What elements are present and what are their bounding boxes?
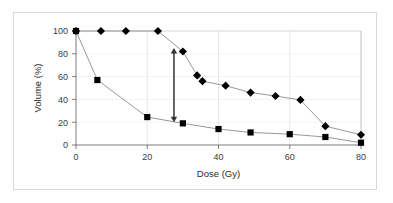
diamond-marker	[357, 131, 365, 139]
square-marker	[180, 120, 186, 126]
x-tick-label-80: 80	[356, 152, 366, 162]
y-tick-label-40: 40	[58, 95, 68, 105]
square-marker	[322, 134, 328, 140]
y-tick-label-0: 0	[63, 140, 68, 150]
y-axis-title: Volume (%)	[32, 63, 43, 112]
diamond-marker	[271, 92, 279, 100]
y-tick-label-20: 20	[58, 118, 68, 128]
x-axis-ticks	[76, 145, 361, 149]
square-marker	[215, 126, 221, 132]
diamond-marker	[122, 27, 130, 35]
x-tick-labels: 0 20 40 60 80	[73, 152, 366, 162]
square-marker	[144, 114, 150, 120]
y-axis-ticks	[72, 31, 76, 145]
y-tick-label-60: 60	[58, 72, 68, 82]
square-marker	[94, 77, 100, 83]
square-marker	[358, 140, 364, 146]
dose-volume-histogram-chart: 100 80 60 40 20 0 0 20 40 60 80 Dose (Gy…	[0, 0, 393, 203]
diamond-marker	[246, 88, 254, 96]
square-marker	[247, 129, 253, 135]
figure-root: 100 80 60 40 20 0 0 20 40 60 80 Dose (Gy…	[0, 0, 393, 203]
square-marker	[287, 131, 293, 137]
annotation-layer	[171, 48, 177, 122]
diamond-marker	[222, 82, 230, 90]
x-tick-label-20: 20	[142, 152, 152, 162]
y-tick-label-100: 100	[53, 26, 68, 36]
x-tick-label-40: 40	[213, 152, 223, 162]
x-tick-label-0: 0	[73, 152, 78, 162]
x-axis-title: Dose (Gy)	[197, 168, 240, 179]
annotation-arrow-head-top	[171, 48, 177, 54]
x-tick-label-60: 60	[285, 152, 295, 162]
y-tick-labels: 100 80 60 40 20 0	[53, 26, 68, 150]
y-tick-label-80: 80	[58, 49, 68, 59]
diamond-marker	[97, 27, 105, 35]
